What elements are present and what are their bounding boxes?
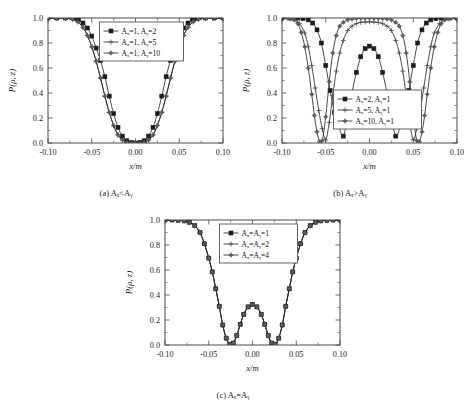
legend-label: Aₓ=10, Aᵧ=1: [356, 117, 395, 127]
svg-text:0.8: 0.8: [33, 39, 43, 48]
y-axis-label: P(ρ, z): [241, 69, 251, 93]
svg-text:1.0: 1.0: [150, 216, 160, 225]
legend: Aₓ=2, Aᵧ=1Aₓ=5, Aᵧ=1Aₓ=10, Aᵧ=1: [334, 90, 422, 129]
svg-text:0.4: 0.4: [267, 89, 277, 98]
legend-label: Aₓ=1, Aᵧ=5: [122, 38, 157, 48]
svg-text:0.2: 0.2: [150, 316, 160, 325]
svg-text:0.8: 0.8: [267, 39, 277, 48]
panel-b: -0.10-0.050.000.050.100.00.20.40.60.81.0…: [234, 4, 466, 184]
svg-text:-0.10: -0.10: [156, 350, 173, 359]
svg-text:0.05: 0.05: [172, 148, 186, 157]
legend-label: Aₓ=Aᵧ=4: [242, 251, 270, 261]
legend-label: Aₓ=2, Aᵧ=1: [356, 95, 391, 105]
svg-text:0.2: 0.2: [33, 114, 43, 123]
legend-label: Aₓ=5, Aᵧ=1: [356, 106, 391, 116]
panel-a-caption: (a) Aₓ<Aᵧ: [0, 188, 232, 198]
x-axis-label: x/m: [128, 161, 142, 171]
svg-text:0.05: 0.05: [289, 350, 303, 359]
svg-text:-0.05: -0.05: [317, 148, 334, 157]
svg-text:0.10: 0.10: [450, 148, 464, 157]
svg-text:0.05: 0.05: [406, 148, 420, 157]
panel-a-plot: -0.10-0.050.000.050.100.00.20.40.60.81.0…: [0, 4, 232, 184]
legend-label: Aₓ=Aᵧ=1: [242, 229, 270, 239]
svg-text:-0.05: -0.05: [200, 350, 217, 359]
svg-text:0.10: 0.10: [333, 350, 347, 359]
svg-text:-0.10: -0.10: [39, 148, 56, 157]
svg-text:0.00: 0.00: [128, 148, 142, 157]
panel-c-caption-text: (c) Aₓ=Aᵧ: [217, 390, 250, 400]
panel-b-caption-text: (b) Aₓ>Aᵧ: [333, 188, 366, 198]
panel-c-caption: (c) Aₓ=Aᵧ: [117, 390, 349, 400]
legend-label: Aₓ=Aᵧ=2: [242, 240, 270, 250]
svg-text:0.6: 0.6: [150, 266, 160, 275]
svg-text:0.6: 0.6: [33, 64, 43, 73]
legend: Aₓ=Aᵧ=1Aₓ=Aᵧ=2Aₓ=Aᵧ=4: [220, 224, 298, 263]
legend-label: Aₓ=1, Aᵧ=2: [122, 27, 157, 37]
figure-root: -0.10-0.050.000.050.100.00.20.40.60.81.0…: [0, 0, 467, 409]
svg-text:0.0: 0.0: [267, 139, 277, 148]
svg-text:1.0: 1.0: [33, 14, 43, 23]
svg-text:0.00: 0.00: [245, 350, 259, 359]
svg-text:0.00: 0.00: [362, 148, 376, 157]
legend-label: Aₓ=1, Aᵧ=10: [122, 49, 161, 59]
svg-text:0.2: 0.2: [267, 114, 277, 123]
svg-text:-0.10: -0.10: [273, 148, 290, 157]
legend: Aₓ=1, Aᵧ=2Aₓ=1, Aᵧ=5Aₓ=1, Aᵧ=10: [100, 22, 184, 61]
figure-footer-text: [0, 400, 467, 409]
panel-c-plot: -0.10-0.050.000.050.100.00.20.40.60.81.0…: [117, 206, 349, 386]
svg-text:1.0: 1.0: [267, 14, 277, 23]
y-axis-label: P(ρ, z): [124, 271, 134, 295]
panel-c: -0.10-0.050.000.050.100.00.20.40.60.81.0…: [117, 206, 349, 386]
svg-text:0.0: 0.0: [150, 341, 160, 350]
svg-text:-0.05: -0.05: [83, 148, 100, 157]
svg-text:0.0: 0.0: [33, 139, 43, 148]
svg-text:0.4: 0.4: [150, 291, 160, 300]
x-axis-label: x/m: [245, 363, 259, 373]
svg-text:0.4: 0.4: [33, 89, 43, 98]
panel-a: -0.10-0.050.000.050.100.00.20.40.60.81.0…: [0, 4, 232, 184]
y-axis-label: P(ρ, z): [7, 69, 17, 93]
svg-text:0.8: 0.8: [150, 241, 160, 250]
panel-b-plot: -0.10-0.050.000.050.100.00.20.40.60.81.0…: [234, 4, 466, 184]
svg-text:0.10: 0.10: [216, 148, 230, 157]
panel-a-caption-text: (a) Aₓ<Aᵧ: [100, 188, 133, 198]
svg-text:0.6: 0.6: [267, 64, 277, 73]
panel-b-caption: (b) Aₓ>Aᵧ: [234, 188, 466, 198]
x-axis-label: x/m: [362, 161, 376, 171]
